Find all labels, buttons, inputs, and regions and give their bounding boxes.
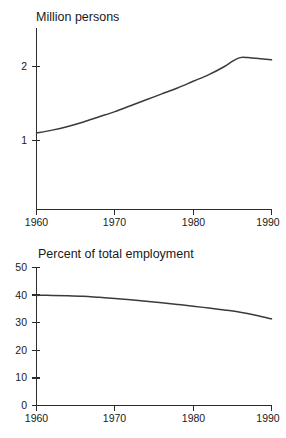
bottom-chart-title: Percent of total employment: [38, 247, 194, 261]
top-chart-ytick-1-label: 1: [21, 134, 27, 146]
top-chart-axes: [37, 28, 273, 210]
figure-container: Million persons 2 1 1960 1970 1980 1990: [0, 0, 286, 438]
bottom-chart-ytick-0-label: 0: [21, 399, 27, 411]
bottom-chart-ytick-40-label: 40: [15, 289, 27, 301]
top-chart-xtick-1960-label: 1960: [25, 216, 49, 228]
bottom-chart-xtick-1990-label: 1990: [256, 412, 280, 424]
chart-panel-percent-employment: Percent of total employment 50 40 30 20 …: [0, 230, 286, 438]
bottom-chart-xtick-1960-label: 1960: [25, 412, 49, 424]
top-chart-xtick-1980-label: 1980: [182, 216, 206, 228]
chart-panel-million-persons: Million persons 2 1 1960 1970 1980 1990: [0, 0, 286, 230]
top-chart-xtick-1970-label: 1970: [103, 216, 127, 228]
bottom-chart-ytick-10-label: 10: [15, 371, 27, 383]
top-chart-title: Million persons: [36, 10, 119, 24]
top-chart-series-line: [37, 57, 272, 133]
bottom-chart-ytick-30-label: 30: [15, 316, 27, 328]
top-chart-svg: Million persons 2 1 1960 1970 1980 1990: [0, 0, 286, 230]
bottom-chart-ytick-20-label: 20: [15, 344, 27, 356]
bottom-chart-series-line: [37, 295, 272, 318]
bottom-chart-xtick-1970-label: 1970: [103, 412, 127, 424]
top-chart-xtick-1990-label: 1990: [256, 216, 280, 228]
bottom-chart-xtick-1980-label: 1980: [182, 412, 206, 424]
bottom-chart-axes: [37, 267, 273, 406]
top-chart-ytick-2-label: 2: [21, 60, 27, 72]
bottom-chart-ytick-50-label: 50: [15, 261, 27, 273]
bottom-chart-svg: Percent of total employment 50 40 30 20 …: [0, 230, 286, 438]
